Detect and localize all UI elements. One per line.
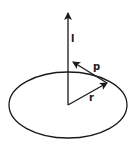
label-r: r (89, 92, 94, 103)
label-l: l (71, 33, 74, 44)
position-vector (68, 83, 107, 105)
label-p: p (93, 61, 100, 72)
angular-momentum-diagram: l p r (0, 0, 135, 150)
